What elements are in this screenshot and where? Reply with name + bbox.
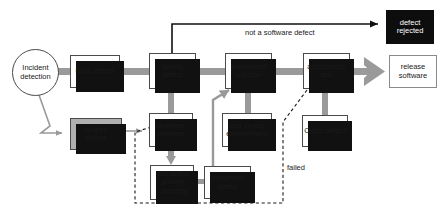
node-release-software[interactable]: release software — [389, 55, 437, 88]
node-label-defect-rejected: defect rejected — [397, 19, 424, 36]
node-defect-rejected[interactable]: defect rejected — [386, 10, 434, 44]
node-raise-defect[interactable]: raise defect — [70, 55, 120, 88]
node-close-defect[interactable]: Close defect — [302, 115, 348, 147]
node-label-release-software: release software — [399, 63, 427, 80]
node-acceptance-test[interactable]: acceptance test — [303, 53, 350, 89]
node-label-reopen-defect: reopen defect — [84, 126, 107, 143]
node-label-raise-defect: raise defect — [76, 67, 115, 75]
node-label-close-defect: Close defect — [304, 127, 346, 135]
edge-label-text-not-a-software-defect: not a software defect — [245, 28, 315, 37]
node-label-test-in-req-environment: test in req. environment — [226, 122, 267, 139]
edge-label-text-failed: failed — [287, 163, 305, 172]
node-document-defect[interactable]: document defect — [204, 166, 251, 199]
node-label-document-defect: document defect — [211, 174, 244, 191]
node-label-qualify-defect: qualify defect — [162, 63, 184, 80]
edge-label-failed: failed — [287, 163, 305, 172]
workflow-diagram: Incident detection raise defect qualify … — [0, 0, 443, 220]
node-label-incident-detection: Incident detection — [20, 64, 50, 81]
edge-qualify-to-implement — [196, 68, 226, 75]
edge-incident-to-reopen — [39, 95, 62, 133]
node-test-in-req-environment[interactable]: test in req. environment — [222, 113, 272, 147]
node-label-acceptance-test: acceptance test — [307, 63, 345, 80]
edge-acceptance-to-release — [350, 57, 385, 86]
edge-implement-to-acceptance — [272, 68, 304, 75]
edge-label-not-a-software-defect: not a software defect — [245, 28, 315, 37]
node-analyze-problem[interactable]: analyze problem — [149, 113, 193, 147]
node-incident-detection[interactable]: Incident detection — [12, 49, 59, 96]
node-label-analyze-problem: analyze problem — [157, 122, 184, 139]
node-implement-solution[interactable]: implement solution — [225, 53, 272, 89]
node-set-defect-priority-severity[interactable]: set defect . priority . severity — [150, 165, 194, 200]
node-qualify-defect[interactable]: qualify defect — [149, 53, 196, 89]
edge-raise-to-qualify — [120, 68, 150, 75]
node-label-set-defect-priority-severity: set defect . priority . severity — [154, 170, 190, 195]
node-label-implement-solution: implement solution — [231, 63, 266, 80]
node-reopen-defect[interactable]: reopen defect — [70, 118, 122, 150]
